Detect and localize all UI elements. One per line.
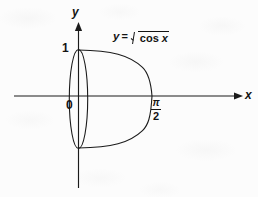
radicand: cos x xyxy=(138,31,169,44)
equation-equals-sign: = xyxy=(121,31,127,42)
radical-expression: cos x xyxy=(131,31,169,45)
fraction-numerator: π xyxy=(151,98,161,109)
origin-label: 0 xyxy=(66,99,73,111)
fraction-denominator: 2 xyxy=(151,111,161,123)
y-tick-label-one: 1 xyxy=(62,42,69,54)
plot-canvas xyxy=(0,0,258,197)
x-axis-arrow-icon xyxy=(234,92,243,99)
radicand-function: cos xyxy=(140,32,162,44)
x-axis-label: x xyxy=(245,89,252,101)
square-root-icon xyxy=(131,31,138,45)
x-tick-label-pi-over-two: π 2 xyxy=(151,98,161,122)
curve-equation-label: y = cos x xyxy=(113,31,169,45)
math-figure: y x 1 0 π 2 y = cos x xyxy=(0,0,258,197)
equation-left-side: y xyxy=(113,31,119,43)
y-axis-arrow-icon xyxy=(75,22,82,31)
curve-lower-sqrt-cos xyxy=(79,96,153,148)
radicand-variable: x xyxy=(162,32,168,44)
y-axis-label: y xyxy=(72,6,79,18)
curve-upper-sqrt-cos xyxy=(79,50,153,96)
